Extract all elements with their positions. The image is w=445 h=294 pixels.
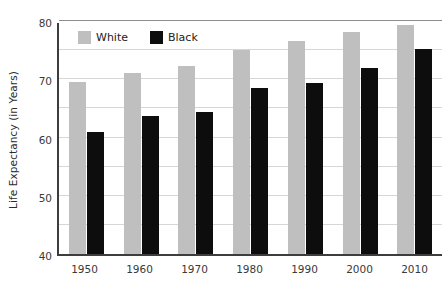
bar-white-2010[interactable]	[397, 25, 414, 255]
bar-group-1960	[114, 23, 169, 254]
x-tick-label: 1970	[167, 258, 222, 278]
bar-groups	[59, 23, 442, 254]
x-tick-label: 2000	[332, 258, 387, 278]
bar-white-1980[interactable]	[233, 50, 250, 254]
bar-white-1990[interactable]	[288, 41, 305, 254]
y-tick-label: 70	[26, 75, 52, 87]
bar-group-1990	[278, 23, 333, 254]
x-tick-label: 1950	[57, 258, 112, 278]
x-axis-tick-labels: 1950196019701980199020002010	[57, 258, 442, 278]
x-tick-label: 1980	[222, 258, 277, 278]
y-tick-label: 50	[26, 192, 52, 204]
bar-group-2000	[333, 23, 388, 254]
y-axis-title: Life Expectancy (in Years)	[4, 24, 22, 256]
bar-white-1970[interactable]	[178, 66, 195, 254]
bar-black-1990[interactable]	[306, 83, 323, 254]
bar-white-1960[interactable]	[124, 73, 141, 254]
plot-top-rule	[59, 20, 442, 21]
bar-black-1970[interactable]	[196, 112, 213, 254]
bar-group-1970	[168, 23, 223, 254]
y-tick-label: 60	[26, 134, 52, 146]
x-tick-label: 1990	[277, 258, 332, 278]
bar-group-2010	[387, 23, 442, 254]
bar-group-1950	[59, 23, 114, 254]
bar-white-2000[interactable]	[343, 32, 360, 255]
bar-black-2010[interactable]	[415, 49, 432, 254]
y-axis-title-text: Life Expectancy (in Years)	[7, 71, 19, 209]
plot-area: WhiteBlack	[57, 23, 442, 256]
bar-black-1950[interactable]	[87, 132, 104, 254]
chart-figure: Life Expectancy (in Years) 4050607080 Wh…	[0, 0, 445, 294]
x-tick-label: 1960	[112, 258, 167, 278]
clipped-header-text	[0, 0, 445, 7]
bar-black-1980[interactable]	[251, 88, 268, 254]
bar-black-2000[interactable]	[361, 68, 378, 254]
bar-black-1960[interactable]	[142, 116, 159, 254]
bar-white-1950[interactable]	[69, 82, 86, 254]
y-tick-label: 80	[26, 17, 52, 29]
bar-group-1980	[223, 23, 278, 254]
x-tick-label: 2010	[387, 258, 442, 278]
y-axis-tick-labels: 4050607080	[26, 0, 52, 294]
y-tick-label: 40	[26, 250, 52, 262]
